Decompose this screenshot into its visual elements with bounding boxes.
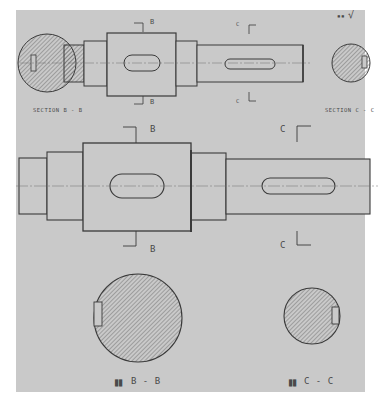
section-c-c-label-bottom: C - C: [304, 376, 334, 386]
surface-finish-prefix: ▪▪: [337, 12, 345, 19]
cut-marker-b-bottom: B: [150, 98, 155, 106]
top-section-c-c-circle: [332, 44, 370, 82]
main-shaft: [19, 143, 370, 232]
cut-marker-c-top: C: [236, 21, 240, 27]
main-cut-marker-b-bottom: B: [150, 244, 156, 254]
cut-marker-b-top: B: [150, 18, 155, 26]
section-c-c-label-top: SECTION C - C: [325, 107, 375, 113]
main-cut-marker-c-bottom: C: [280, 240, 286, 250]
section-c-c-prefix: ▉▉: [289, 379, 297, 386]
bottom-section-b-b-circle: [94, 274, 182, 362]
technical-drawing: [0, 0, 390, 405]
cut-marker-c-bottom: C: [236, 98, 240, 104]
main-cut-marker-c-top: C: [280, 124, 286, 134]
surface-finish-icon: √: [348, 9, 355, 20]
main-cut-marker-b-top: B: [150, 124, 156, 134]
section-b-b-label-bottom: B - B: [131, 376, 161, 386]
bottom-section-c-c-circle: [284, 288, 340, 344]
top-shaft: [64, 33, 303, 96]
section-b-b-label-top: SECTION B - B: [33, 107, 83, 113]
section-b-b-prefix: ▉▉: [115, 379, 123, 386]
